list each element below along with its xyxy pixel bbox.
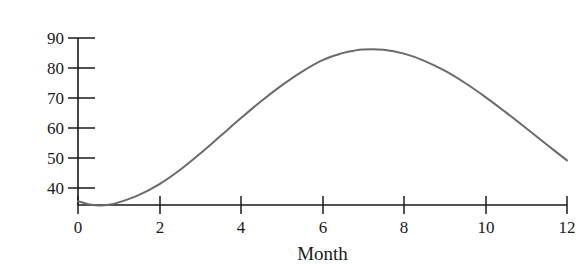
y-tick-label-70: 70 bbox=[47, 90, 64, 107]
y-tick-label-40: 40 bbox=[47, 180, 64, 197]
y-axis-ticks bbox=[68, 38, 95, 188]
x-tick-label-0: 0 bbox=[74, 219, 83, 236]
x-tick-label-10: 10 bbox=[478, 219, 495, 236]
x-tick-label-4: 4 bbox=[237, 219, 246, 236]
temperature-curve bbox=[78, 49, 567, 205]
y-tick-label-60: 60 bbox=[47, 120, 64, 137]
plot-area bbox=[0, 0, 588, 277]
y-tick-label-80: 80 bbox=[47, 60, 64, 77]
x-tick-label-8: 8 bbox=[400, 219, 409, 236]
y-tick-label-90: 90 bbox=[47, 30, 64, 47]
x-axis-label: Month bbox=[78, 243, 567, 265]
axes bbox=[78, 38, 567, 205]
chart-figure: Normal high temperature 90 80 70 60 50 bbox=[0, 0, 588, 277]
y-tick-label-50: 50 bbox=[47, 150, 64, 167]
x-tick-label-12: 12 bbox=[559, 219, 576, 236]
x-tick-label-2: 2 bbox=[156, 219, 165, 236]
x-tick-label-6: 6 bbox=[319, 219, 328, 236]
